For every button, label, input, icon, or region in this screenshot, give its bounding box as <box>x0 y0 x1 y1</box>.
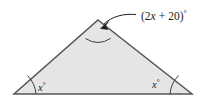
leader-line <box>104 14 137 24</box>
base-right-label-degree: ° <box>157 78 160 87</box>
apex-label-operator: + <box>159 10 166 22</box>
apex-label-variable: x <box>150 10 157 22</box>
apex-angle-label: (2x+20)° <box>141 9 187 23</box>
geometry-figure: (2x+20)° x° x° <box>0 0 206 103</box>
apex-label-degree: ° <box>184 9 187 18</box>
base-left-label-degree: ° <box>43 81 46 90</box>
triangle-diagram-svg: (2x+20)° x° x° <box>0 0 206 103</box>
apex-label-constant: 20 <box>168 10 180 22</box>
